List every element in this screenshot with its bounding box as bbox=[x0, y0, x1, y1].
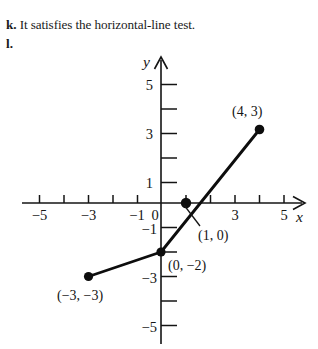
point-label-minus3-minus3: (−3, −3) bbox=[57, 288, 103, 304]
problem-letter-k: k. bbox=[6, 17, 16, 32]
x-tick-label-3: 3 bbox=[231, 207, 238, 223]
graph-figure: y x −5 −3 −1 3 5 0 5 3 1 −1 −3 −5 (4, 3)… bbox=[0, 44, 318, 349]
data-point-0-minus2 bbox=[156, 247, 165, 256]
point-label-0-minus2: (0, −2) bbox=[168, 258, 207, 274]
x-tick-label-5: 5 bbox=[280, 207, 287, 223]
y-tick-label-3: 3 bbox=[146, 126, 153, 142]
y-tick-label-1: 1 bbox=[146, 175, 153, 191]
point-label-1-0: (1, 0) bbox=[198, 228, 229, 244]
y-axis-ticks bbox=[161, 85, 177, 326]
point-label-4-3: (4, 3) bbox=[232, 104, 263, 120]
x-tick-label-minus3: −3 bbox=[81, 207, 96, 223]
coordinate-plane: y x −5 −3 −1 3 5 0 5 3 1 −1 −3 −5 (4, 3)… bbox=[0, 44, 318, 349]
data-point-minus3-minus3 bbox=[84, 272, 93, 281]
problem-item-k: k. It satisfies the horizontal-line test… bbox=[6, 17, 195, 33]
y-axis-label: y bbox=[141, 53, 150, 70]
y-tick-label-minus5: −5 bbox=[142, 319, 157, 335]
x-tick-label-minus5: −5 bbox=[32, 207, 47, 223]
data-point-4-3 bbox=[255, 125, 265, 135]
y-tick-label-minus3: −3 bbox=[142, 270, 157, 286]
y-tick-label-minus1: −1 bbox=[142, 221, 157, 237]
x-axis-label: x bbox=[295, 208, 303, 225]
y-tick-label-5: 5 bbox=[146, 77, 153, 93]
problem-text-k: It satisfies the horizontal-line test. bbox=[20, 17, 195, 32]
